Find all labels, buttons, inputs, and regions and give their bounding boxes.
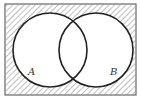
venn-diagram: A B xyxy=(0,0,141,98)
set-a-label: A xyxy=(27,66,35,77)
set-b-label: B xyxy=(109,66,117,77)
